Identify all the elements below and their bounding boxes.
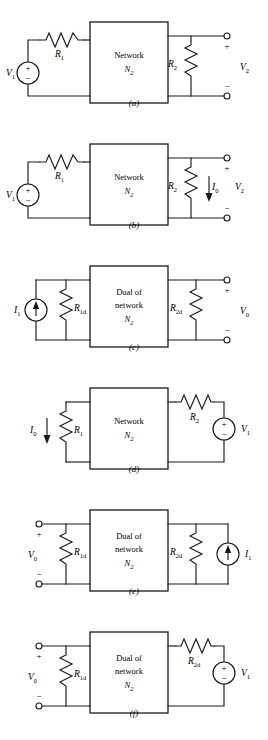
wire-f-source-bottom <box>168 684 224 706</box>
circuit-panel-c: Dual of network N2 I1 R1d R2d + <box>0 244 268 366</box>
network-box-label-d: Network <box>114 416 144 426</box>
network-box-label-b: Network <box>114 172 144 182</box>
network-box-b <box>90 144 168 225</box>
resistor-r1d-f <box>60 646 72 706</box>
terminal-plus-a: + <box>224 41 229 51</box>
terminal-voltage-label-b: V2 <box>235 182 244 194</box>
terminal-voltage-label-c: V0 <box>240 306 249 318</box>
resistor-r1-label-b: R1 <box>54 171 64 183</box>
terminal-plus-e: + <box>36 529 41 539</box>
circuit-diagram-c: Dual of network N2 I1 R1d R2d + <box>0 244 268 354</box>
panel-label-e: (e) <box>0 586 268 596</box>
resistor-r2d-label-f: R2d <box>187 656 201 668</box>
resistor-r1-d <box>60 402 72 462</box>
panel-label-f: (f) <box>0 708 268 718</box>
voltage-source-label-a: V1 <box>6 68 15 80</box>
circuit-panel-e: Dual of network N2 + − V0 R1d R2d <box>0 488 268 610</box>
wire-a-bottom <box>28 84 90 96</box>
resistor-r1d-label-f: R1d <box>73 669 87 681</box>
resistor-r1d-e <box>60 524 72 584</box>
circuit-diagram-b: Network N2 + − V1 R1 R2 I0 + − V2 <box>0 122 268 232</box>
circuit-panel-f: Dual of network N2 + − V0 R1d R2d + − V1 <box>0 610 268 732</box>
network-box-label-a: Network <box>114 50 144 60</box>
network-box-label1-e: Dual of <box>116 531 142 541</box>
resistor-r1-label-a: R1 <box>54 49 64 61</box>
voltage-source-label-f: V1 <box>241 668 250 680</box>
voltage-source-minus-f: − <box>221 673 226 683</box>
resistor-r1-a <box>40 33 84 47</box>
wire-d-res-to-source <box>214 402 224 418</box>
terminal-top-f <box>36 643 42 649</box>
circuit-diagram-f: Dual of network N2 + − V0 R1d R2d + − V1 <box>0 610 268 720</box>
network-box-a <box>90 22 168 103</box>
terminal-voltage-label-e: V0 <box>28 550 37 562</box>
voltage-source-label-d: V1 <box>241 424 250 436</box>
circuit-diagram-e: Dual of network N2 + − V0 R1d R2d <box>0 488 268 598</box>
resistor-r2d-label-c: R2d <box>169 303 183 315</box>
terminal-voltage-label-a: V2 <box>240 62 249 74</box>
current-arrow-head-d <box>44 435 51 444</box>
panel-label-d: (d) <box>0 464 268 474</box>
terminal-voltage-label-f: V0 <box>28 672 37 684</box>
circuit-panel-a: Network N2 + − V1 R1 R2 + − <box>0 0 268 122</box>
resistor-r2d-c <box>190 280 202 340</box>
wire-b-source-top <box>28 162 40 184</box>
wire-d-source-bottom <box>168 440 224 462</box>
terminal-minus-b: − <box>224 203 229 213</box>
circuit-panel-d: Network N2 R1 I0 R2 + − V1 (d) <box>0 366 268 488</box>
resistor-r1d-label-c: R1d <box>73 303 87 315</box>
voltage-source-plus-b: + <box>25 185 30 195</box>
current-arrow-head-b <box>206 193 213 202</box>
voltage-source-minus-d: − <box>221 429 226 439</box>
resistor-r1d-label-e: R1d <box>73 547 87 559</box>
voltage-source-plus-f: + <box>221 663 226 673</box>
resistor-r2-b <box>185 158 197 218</box>
network-box-label2-c: network <box>115 300 144 310</box>
terminal-top-e <box>36 521 42 527</box>
resistor-r1-label-d: R1 <box>73 425 83 437</box>
terminal-minus-c: − <box>224 325 229 335</box>
current-source-label-e: I1 <box>244 549 251 561</box>
voltage-source-minus-a: − <box>25 73 30 83</box>
resistor-r2-d <box>176 395 214 409</box>
current-arrow-label-b: I0 <box>211 182 218 194</box>
terminal-plus-f: + <box>36 651 41 661</box>
network-box-label1-f: Dual of <box>116 653 142 663</box>
panel-label-b: (b) <box>0 220 268 230</box>
voltage-source-label-b: V1 <box>6 190 15 202</box>
terminal-top-a <box>224 33 230 39</box>
wire-f-res-to-source <box>214 646 224 662</box>
circuit-diagram-d: Network N2 R1 I0 R2 + − V1 <box>0 366 268 476</box>
terminal-top-b <box>224 155 230 161</box>
network-box-label1-c: Dual of <box>116 287 142 297</box>
circuit-diagram-a: Network N2 + − V1 R1 R2 + − <box>0 0 268 110</box>
panel-label-a: (a) <box>0 98 268 108</box>
wire-b-bottom <box>28 206 90 218</box>
current-source-label-c: I1 <box>13 305 20 317</box>
current-arrow-label-d: I0 <box>29 425 36 437</box>
resistor-r1d-c <box>60 280 72 340</box>
network-box-label2-f: network <box>115 666 144 676</box>
terminal-minus-e: − <box>36 569 41 579</box>
voltage-source-minus-b: − <box>25 195 30 205</box>
terminal-top-c <box>224 277 230 283</box>
resistor-r2d-f <box>176 639 214 653</box>
voltage-source-plus-d: + <box>221 419 226 429</box>
wire-a-source-top <box>28 40 40 62</box>
resistor-r2d-e <box>190 524 202 584</box>
resistor-r2-label-d: R2 <box>189 412 199 424</box>
network-box-label2-e: network <box>115 544 144 554</box>
terminal-plus-c: + <box>224 285 229 295</box>
figure-page: Network N2 + − V1 R1 R2 + − <box>0 0 268 740</box>
voltage-source-plus-a: + <box>25 63 30 73</box>
terminal-minus-a: − <box>224 81 229 91</box>
network-box-d <box>90 388 168 469</box>
circuit-panel-b: Network N2 + − V1 R1 R2 I0 + − V2 <box>0 122 268 244</box>
resistor-r2d-label-e: R2d <box>169 547 183 559</box>
terminal-minus-f: − <box>36 691 41 701</box>
resistor-r1-b <box>40 155 84 169</box>
resistor-r2-a <box>185 36 197 96</box>
panel-label-c: (c) <box>0 342 268 352</box>
terminal-plus-b: + <box>224 163 229 173</box>
